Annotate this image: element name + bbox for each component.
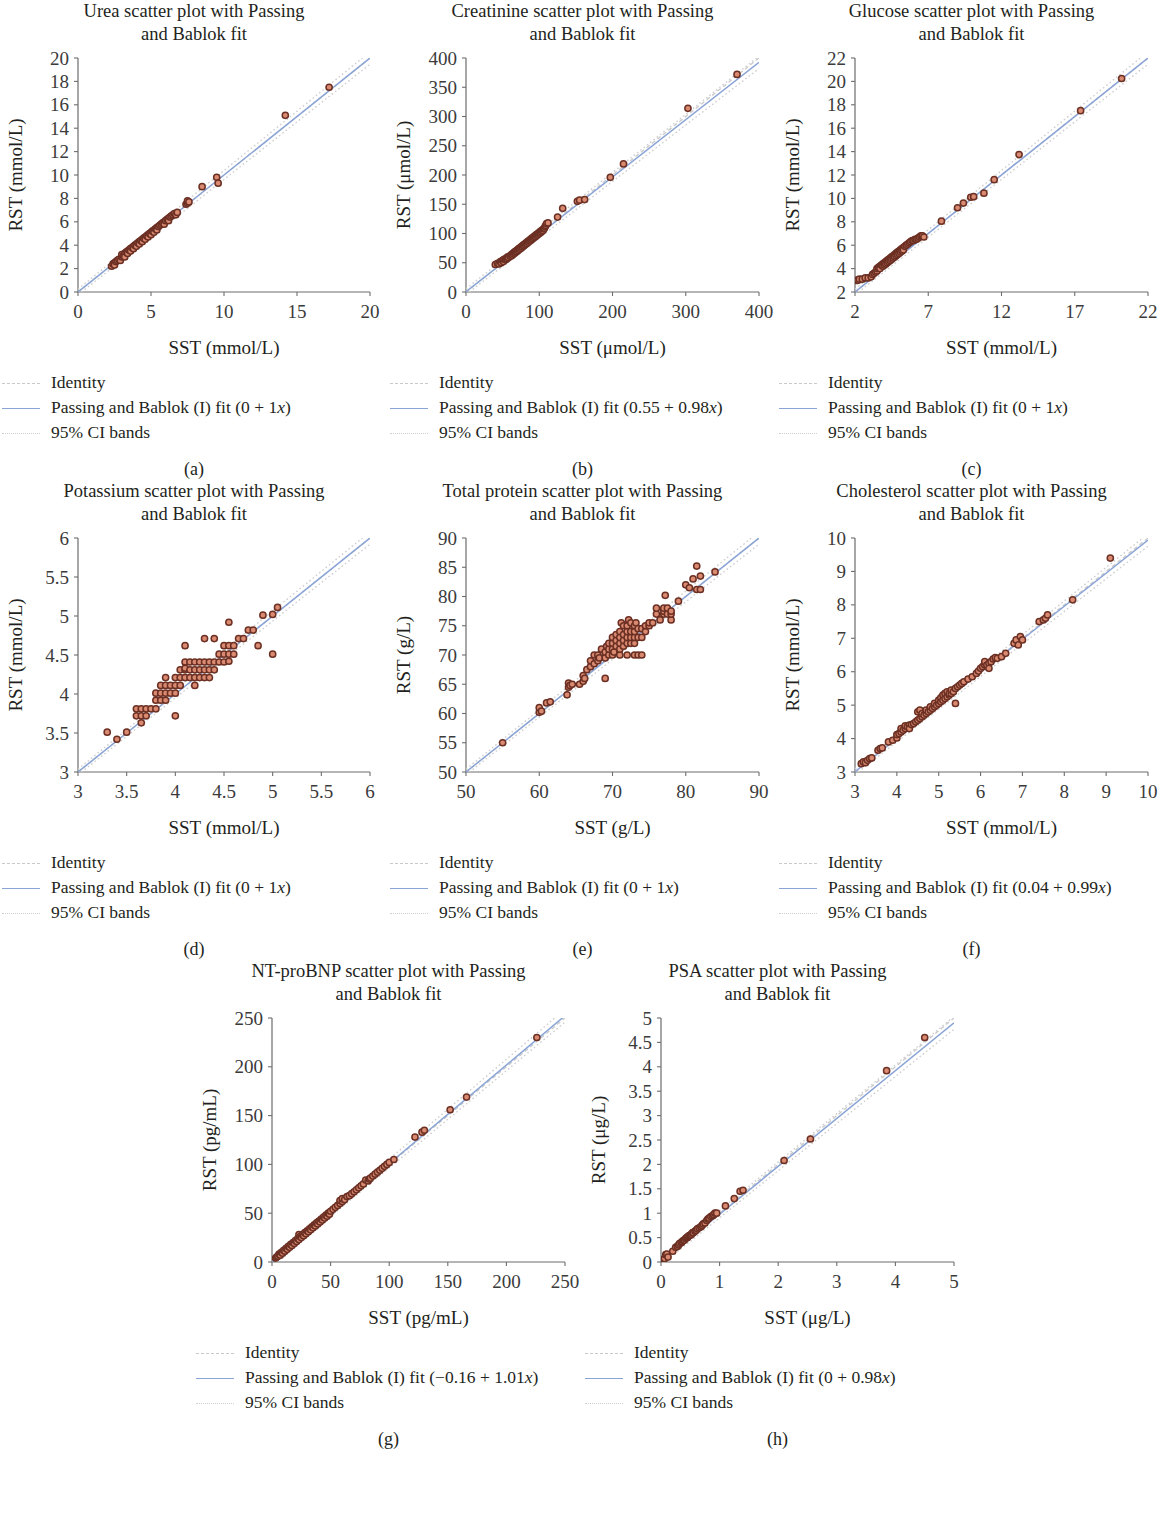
data-point xyxy=(1044,612,1050,618)
data-point xyxy=(538,708,544,714)
y-tick-label: 50 xyxy=(438,762,457,783)
data-point xyxy=(722,1203,728,1209)
data-point xyxy=(163,675,169,681)
data-point xyxy=(582,675,588,681)
x-tick-label: 200 xyxy=(492,1271,521,1292)
x-tick-label: 0 xyxy=(267,1271,277,1292)
data-point xyxy=(685,105,691,111)
data-point xyxy=(960,200,966,206)
fit-line-key-icon xyxy=(388,881,430,895)
data-point xyxy=(694,563,700,569)
data-point xyxy=(534,1034,540,1040)
data-point xyxy=(545,220,551,226)
legend-item-ci: 95% CI bands xyxy=(0,420,388,445)
plot-canvas-d: 33.544.555.5633.544.555.56SST (mmol/L)RS… xyxy=(0,526,388,846)
data-point xyxy=(153,706,159,712)
data-point xyxy=(255,643,261,649)
y-tick-label: 3 xyxy=(837,762,847,783)
data-point xyxy=(952,700,958,706)
panel-c-plot: 24681012141618202227121722SST (mmol/L)RS… xyxy=(777,46,1166,366)
x-tick-label: 3 xyxy=(832,1271,842,1292)
legend-item-ci: 95% CI bands xyxy=(777,420,1166,445)
panel-f: Cholesterol scatter plot with Passing an… xyxy=(777,480,1166,960)
fit-line-key-icon xyxy=(0,881,42,895)
x-tick-label: 5 xyxy=(934,781,944,802)
data-point xyxy=(270,651,276,657)
data-point xyxy=(1107,555,1113,561)
data-point xyxy=(226,658,232,664)
x-tick-label: 50 xyxy=(321,1271,340,1292)
y-tick-label: 5 xyxy=(837,695,847,716)
x-tick-label: 1 xyxy=(715,1271,725,1292)
y-tick-label: 5 xyxy=(60,606,70,627)
fit-label: Passing and Bablok (I) fit (0 + 0.98x) xyxy=(634,1365,896,1390)
x-tick-label: 6 xyxy=(976,781,986,802)
fit-line-key-icon xyxy=(0,401,42,415)
y-tick-label: 70 xyxy=(438,645,457,666)
data-point xyxy=(807,1136,813,1142)
legend-item-ci: 95% CI bands xyxy=(388,900,777,925)
x-axis-title: SST (μmol/L) xyxy=(559,337,665,359)
y-tick-label: 9 xyxy=(837,561,847,582)
y-tick-label: 20 xyxy=(50,48,69,69)
panel-f-legend: Identity Passing and Bablok (I) fit (0.0… xyxy=(777,850,1166,925)
data-point xyxy=(211,667,217,673)
data-point xyxy=(270,611,276,617)
data-point xyxy=(201,636,207,642)
panel-a-legend: Identity Passing and Bablok (I) fit (0 +… xyxy=(0,370,388,445)
legend-item-fit: Passing and Bablok (I) fit (0 + 1x) xyxy=(0,875,388,900)
y-tick-label: 4 xyxy=(60,235,70,256)
x-tick-label: 6 xyxy=(365,781,375,802)
y-tick-label: 150 xyxy=(429,194,458,215)
y-tick-label: 12 xyxy=(50,141,69,162)
panel-b-caption: (b) xyxy=(388,459,777,480)
y-tick-label: 200 xyxy=(235,1056,264,1077)
x-axis-title: SST (μg/L) xyxy=(764,1307,850,1329)
panel-h-legend: Identity Passing and Bablok (I) fit (0 +… xyxy=(583,1340,972,1415)
data-point xyxy=(163,697,169,703)
x-tick-label: 5.5 xyxy=(309,781,333,802)
legend-item-identity: Identity xyxy=(194,1340,583,1365)
y-tick-label: 100 xyxy=(429,223,458,244)
x-tick-label: 5 xyxy=(268,781,278,802)
data-point xyxy=(192,682,198,688)
data-point xyxy=(174,209,180,215)
data-point xyxy=(172,690,178,696)
y-tick-label: 4 xyxy=(60,684,70,705)
y-tick-label: 80 xyxy=(438,586,457,607)
data-point xyxy=(104,729,110,735)
data-point xyxy=(421,1127,427,1133)
fit-label: Passing and Bablok (I) fit (−0.16 + 1.01… xyxy=(245,1365,538,1390)
data-point xyxy=(734,71,740,77)
x-tick-label: 12 xyxy=(992,301,1011,322)
x-tick-label: 20 xyxy=(361,301,380,322)
legend-item-fit: Passing and Bablok (I) fit (0 + 1x) xyxy=(777,395,1166,420)
y-tick-label: 18 xyxy=(827,94,846,115)
fit-line-key-icon xyxy=(777,401,819,415)
y-tick-label: 60 xyxy=(438,703,457,724)
panel-e: Total protein scatter plot with Passing … xyxy=(388,480,777,960)
data-point xyxy=(662,592,668,598)
y-tick-label: 6 xyxy=(837,661,847,682)
y-tick-label: 8 xyxy=(60,188,70,209)
legend-item-identity: Identity xyxy=(388,850,777,875)
x-tick-label: 3.5 xyxy=(115,781,139,802)
x-tick-label: 5 xyxy=(146,301,156,322)
data-point xyxy=(1078,108,1084,114)
data-point xyxy=(714,1210,720,1216)
x-tick-label: 8 xyxy=(1060,781,1070,802)
identity-line-key-icon xyxy=(388,856,430,870)
data-point xyxy=(938,218,944,224)
y-tick-label: 14 xyxy=(827,141,847,162)
panel-h: PSA scatter plot with Passing and Bablok… xyxy=(583,960,972,1450)
x-tick-label: 0 xyxy=(656,1271,666,1292)
y-tick-label: 0 xyxy=(60,282,70,303)
data-point xyxy=(143,713,149,719)
x-axis-title: SST (mmol/L) xyxy=(946,337,1057,359)
data-point xyxy=(1019,637,1025,643)
x-tick-label: 400 xyxy=(745,301,774,322)
data-point xyxy=(602,675,608,681)
fit-label: Passing and Bablok (I) fit (0.55 + 0.98x… xyxy=(439,395,723,420)
x-tick-label: 90 xyxy=(750,781,769,802)
panel-a-caption: (a) xyxy=(0,459,388,480)
